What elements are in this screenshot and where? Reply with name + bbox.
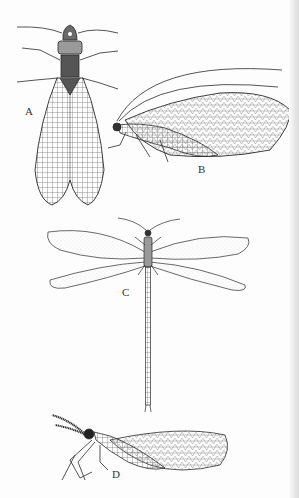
- specimen-label-b: B: [198, 164, 205, 175]
- specimen-label-d: D: [112, 469, 120, 480]
- antlion-icon: [48, 218, 249, 412]
- illustration-plate: A B C D: [0, 0, 299, 498]
- insect-drawings: [0, 0, 299, 498]
- lacewing-icon: [108, 69, 290, 162]
- specimen-label-a: A: [25, 106, 33, 117]
- page-gutter-shadow: [289, 0, 299, 498]
- specimen-label-c: C: [122, 287, 129, 298]
- mantidfly-icon: [52, 415, 228, 480]
